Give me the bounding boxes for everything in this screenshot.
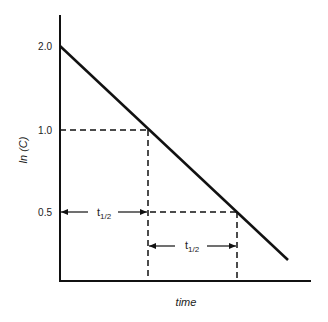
svg-text:t1/2: t1/2 <box>97 206 112 221</box>
tick-1-0: 1.0 <box>38 125 52 136</box>
svg-text:t1/2: t1/2 <box>185 239 200 254</box>
guide-1 <box>60 130 148 281</box>
x-axis-label: time <box>176 296 197 308</box>
decay-line <box>60 46 288 260</box>
y-axis-label: ln (C) <box>17 136 29 163</box>
tick-0-5: 0.5 <box>38 207 52 218</box>
half-life-chart: 2.0 1.0 0.5 ln (C) time t1/2 t1/2 <box>0 0 328 322</box>
half-life-span-2: t1/2 <box>149 239 236 254</box>
tick-2-0: 2.0 <box>38 41 52 52</box>
half-life-span-1: t1/2 <box>61 206 147 221</box>
